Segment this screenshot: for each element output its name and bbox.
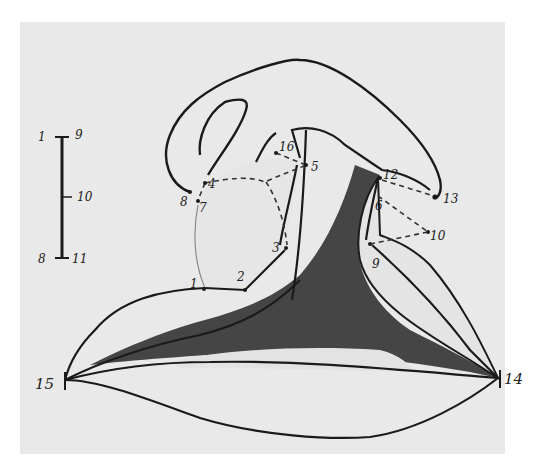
anatomical-diagram: 1 9 10 8 11 1 2 3 4 5 6 7 8 9 10 12 13 1… [0,0,555,468]
scale-label-bottom-right: 11 [72,252,87,266]
label-point-4: 4 [207,177,216,191]
strand-16 [256,133,276,162]
label-point-13: 13 [443,192,459,206]
scale-label-bottom-left: 8 [38,252,46,266]
label-point-9: 9 [372,257,380,271]
scale-label-top-left: 1 [38,130,46,144]
label-point-2: 2 [236,270,245,284]
label-point-15: 15 [35,375,54,393]
label-point-7: 7 [199,201,207,215]
inner-teardrop-outline [200,100,247,175]
scale-label-middle: 10 [77,190,93,204]
scale-bar [55,137,72,258]
label-point-6: 6 [375,199,383,213]
label-point-12: 12 [383,168,398,182]
label-point-16: 16 [279,140,295,154]
label-point-1: 1 [190,277,198,291]
label-point-14: 14 [504,370,523,388]
lower-lip-outline [65,378,498,438]
label-point-10: 10 [430,229,446,243]
label-point-8: 8 [180,195,188,209]
scale-label-top-right: 9 [75,128,83,142]
label-point-3: 3 [272,241,280,255]
label-point-5: 5 [311,160,319,174]
